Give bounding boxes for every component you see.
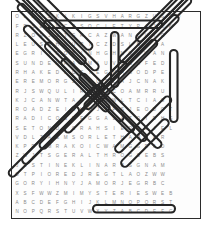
grid-cell: O [126,124,134,133]
grid-cell [175,124,183,133]
grid-cell: R [126,13,134,22]
grid-cell: N [126,32,134,41]
grid-cell: O [62,50,70,59]
grid-cell [183,106,191,115]
grid-cell: J [94,106,102,115]
grid-cell: T [37,134,45,143]
grid-cell: I [78,50,86,59]
grid-cell: A [62,59,70,68]
grid-cell: Y [86,189,94,198]
grid-cell: J [150,22,158,31]
grid-cell [167,134,175,143]
grid-cell: I [142,115,150,124]
grid-cell [167,152,175,161]
grid-cell [175,78,183,87]
grid-cell: N [126,59,134,68]
grid-cell [175,171,183,180]
grid-cell: N [142,161,150,170]
grid-cell: R [78,96,86,105]
grid-cell [191,13,199,22]
grid-cell: R [13,87,21,96]
grid-cell: W [150,189,158,198]
grid-cell: P [21,143,29,152]
grid-cell: F [142,59,150,68]
grid-cell: D [37,198,45,207]
grid-cell: S [29,87,37,96]
grid-cell: E [159,189,167,198]
grid-cell: N [86,50,94,59]
grid-cell [191,152,199,161]
grid-cell: A [118,13,126,22]
grid-cell: T [62,32,70,41]
grid-cell: S [45,13,53,22]
grid-cell: L [110,78,118,87]
grid-cell [167,143,175,152]
grid-cell: E [45,198,53,207]
grid-cell: N [53,161,61,170]
grid-cell: S [142,189,150,198]
grid-cell: T [126,96,134,105]
grid-cell: J [86,198,94,207]
grid-cell: G [134,13,142,22]
grid-cell: A [150,161,158,170]
grid-cell [191,50,199,59]
grid-cell: D [142,208,150,217]
grid-cell: R [53,171,61,180]
grid-cell: J [21,87,29,96]
grid-cell: A [21,115,29,124]
grid-cell: P [110,106,118,115]
grid-cell: W [37,189,45,198]
grid-cell [191,22,199,31]
grid-cell: M [118,143,126,152]
grid-cell: W [37,87,45,96]
grid-cell: A [62,143,70,152]
grid-cell: I [37,171,45,180]
grid-cell: A [118,32,126,41]
grid-cell: F [53,198,61,207]
grid-cell: L [118,96,126,105]
grid-cell: S [45,152,53,161]
grid-cell: U [159,87,167,96]
grid-cell [183,143,191,152]
grid-cell: N [159,50,167,59]
grid-cell: N [53,22,61,31]
grid-cell: M [110,69,118,78]
grid-cell: O [53,115,61,124]
grid-cell: D [53,69,61,78]
grid-cell: E [118,124,126,133]
word-search-puzzle: OLDGSKIKIGSVHARGZUSEDFRSEANCESOCIETYPAJO… [0,0,213,231]
grid-cell: T [142,134,150,143]
grid-cell: R [21,22,29,31]
grid-cell: E [102,134,110,143]
grid-cell: U [102,59,110,68]
grid-cell: C [29,198,37,207]
grid-cell [183,171,191,180]
grid-cell [191,208,199,217]
grid-cell: E [53,134,61,143]
grid-cell [175,69,183,78]
grid-cell [191,180,199,189]
grid-cell [175,106,183,115]
grid-cell: A [142,22,150,31]
grid-cell: C [134,96,142,105]
grid-cell: B [102,96,110,105]
grid-cell: R [29,180,37,189]
grid-cell: A [102,106,110,115]
grid-cell: T [167,106,175,115]
grid-cell: W [102,143,110,152]
grid-cell: Z [142,171,150,180]
grid-cell: S [94,13,102,22]
grid-cell [183,13,191,22]
grid-cell: M [53,59,61,68]
grid-cell: N [118,50,126,59]
grid-cell [183,50,191,59]
grid-cell: L [118,171,126,180]
grid-cell [175,87,183,96]
grid-cell: T [118,22,126,31]
grid-cell: I [78,198,86,207]
grid-cell: Z [142,13,150,22]
grid-cell [191,59,199,68]
grid-cell: E [21,124,29,133]
grid-cell: N [142,78,150,87]
grid-cell: A [29,106,37,115]
